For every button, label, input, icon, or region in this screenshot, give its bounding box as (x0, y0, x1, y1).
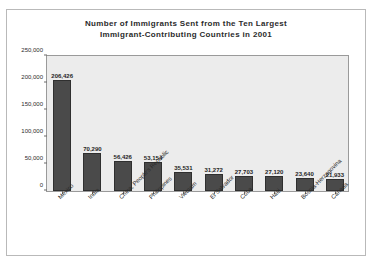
bar-value-label: 35,531 (174, 165, 192, 171)
y-axis-tick-mark (44, 163, 47, 164)
y-axis-tick-mark (44, 55, 47, 56)
y-axis-tick-mark (44, 136, 47, 137)
bar-value-label: 206,426 (51, 73, 73, 79)
bar-value-label: 31,272 (204, 167, 222, 173)
bar-value-label: 27,703 (235, 169, 253, 175)
y-axis-tick-label: 250,000 (21, 47, 43, 53)
chart-title-line-1: Number of Immigrants Sent from the Ten L… (7, 18, 365, 29)
y-axis-tick-mark (44, 109, 47, 110)
bar: 70,290 (83, 153, 101, 191)
chart-frame: Number of Immigrants Sent from the Ten L… (6, 9, 366, 256)
bar-value-label: 27,120 (265, 169, 283, 175)
y-axis-tick-label: 0 (40, 182, 43, 188)
chart-title: Number of Immigrants Sent from the Ten L… (7, 18, 365, 40)
y-axis-tick-label: 200,000 (21, 74, 43, 80)
chart-title-line-2: Immigrant-Contributing Countries in 2001 (7, 29, 365, 40)
y-axis-tick-label: 150,000 (21, 101, 43, 107)
y-axis-tick-mark (44, 190, 47, 191)
bar-value-label: 23,640 (295, 171, 313, 177)
bar-value-label: 70,290 (83, 146, 101, 152)
bar-value-label: 56,426 (114, 154, 132, 160)
bar: 206,426 (53, 80, 71, 191)
y-axis-tick-mark (44, 82, 47, 83)
y-axis-tick-label: 100,000 (21, 128, 43, 134)
y-axis-tick-label: 50,000 (25, 155, 43, 161)
plot-area: 050,000100,000150,000200,000250,000 206,… (46, 55, 349, 192)
